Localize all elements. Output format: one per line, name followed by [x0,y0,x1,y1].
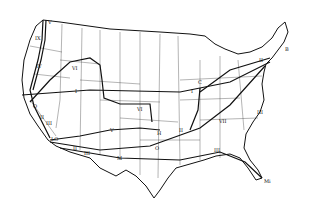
route-III [60,148,262,178]
route-label-Mi: Mi [264,179,271,184]
route-label-H: H [157,131,161,136]
route-label-VII: VII [219,119,227,124]
route-label-IV: IV [36,64,42,69]
route-label-B: B [285,47,289,52]
route-label-V-sw: V [110,128,114,133]
route-label-III-east: III [257,110,263,115]
route-label-II-sw: II [40,115,44,120]
us-outline [22,20,288,198]
route-label-II-mid: II [179,128,183,133]
route-main-south [50,66,265,150]
routes [22,20,270,178]
route-label-II-south: II [73,146,77,151]
route-label-VI-nw: VI [72,66,78,71]
route-C-vertical [190,88,200,130]
route-label-IX: IX [35,36,41,41]
route-label-VI-mid: VI [137,107,143,112]
route-label-O-mid: O [155,146,159,151]
route-label-III-gulf: III [214,148,220,153]
route-label-LO: LO [51,137,58,142]
route-label-C: C [198,80,202,85]
route-V [50,128,160,140]
route-label-II-north: II [259,58,263,63]
route-label-III-south: III [84,151,90,156]
route-label-I-west: I [75,89,77,94]
route-label-M: M [117,156,122,161]
route-label-V-nw: V [48,20,52,25]
route-I [22,62,270,95]
route-label-O-west: O [33,104,37,109]
route-label-I-east: I [191,89,193,94]
route-label-III-sw: III [46,121,52,126]
route-II-north [200,58,270,92]
